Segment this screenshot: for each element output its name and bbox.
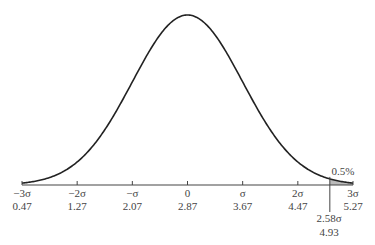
marker-value-label: 4.93 bbox=[319, 226, 338, 238]
tick-value-label: 2.07 bbox=[123, 200, 142, 212]
tick-sigma-label: 3σ bbox=[347, 187, 358, 199]
tick-sigma-label: −3σ bbox=[13, 187, 31, 199]
tick-value-label: 5.27 bbox=[343, 200, 362, 212]
tick-value-label: 0.47 bbox=[12, 200, 31, 212]
tick-value-label: 1.27 bbox=[68, 200, 87, 212]
tick-sigma-label: 0 bbox=[185, 187, 191, 199]
tick-sigma-label: −σ bbox=[126, 187, 138, 199]
tick-value-label: 4.47 bbox=[288, 200, 307, 212]
tick-sigma-label: 2σ bbox=[292, 187, 303, 199]
normal-curve bbox=[22, 15, 353, 183]
tick-value-label: 2.87 bbox=[178, 200, 197, 212]
marker-sigma-label: 2.58σ bbox=[316, 212, 341, 224]
tick-value-label: 3.67 bbox=[233, 200, 252, 212]
tail-annotation: 0.5% bbox=[332, 165, 355, 177]
tick-sigma-label: σ bbox=[240, 187, 246, 199]
tick-sigma-label: −2σ bbox=[68, 187, 86, 199]
